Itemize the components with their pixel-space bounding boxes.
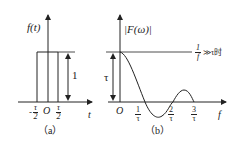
tau-arrow-down <box>110 95 116 101</box>
height-arrow-down <box>65 95 71 101</box>
panel-b-caption: （b） <box>145 126 170 136</box>
sinc-curve <box>120 52 194 117</box>
panel-a-height-label: 1 <box>72 70 78 81</box>
panel-b-tick-1: 1 τ <box>135 106 141 123</box>
panel-a-origin-label: O <box>43 106 50 116</box>
panel-a-y-label: f(t) <box>27 22 40 33</box>
annotation-suffix: ≫τ时 <box>203 49 222 57</box>
tau-arrow-up <box>110 53 116 59</box>
panel-a-x-label: t <box>88 110 91 120</box>
panel-a-right-tick: τ 2 <box>56 104 61 121</box>
panel-b-height-label: τ <box>104 72 108 83</box>
diagram-canvas: f(t) 1 O t - τ 2 τ 2 （a） |F(ω)| τ O f 1 … <box>0 0 244 150</box>
panel-a-left-tick-sign: - <box>29 108 32 117</box>
height-arrow-up <box>65 53 71 59</box>
panel-b-tick-3: 3 τ <box>191 106 197 123</box>
panel-b-x-label: f <box>218 110 221 120</box>
panel-b-y-label: |F(ω)| <box>124 24 152 35</box>
panel-b-origin-label: O <box>116 106 123 116</box>
panel-a-caption: （a） <box>38 126 62 136</box>
annotation-fraction: 1 f <box>195 44 201 61</box>
panel-a-left-tick: τ 2 <box>33 104 38 121</box>
panel-b-tick-2: 2 τ <box>168 106 174 123</box>
